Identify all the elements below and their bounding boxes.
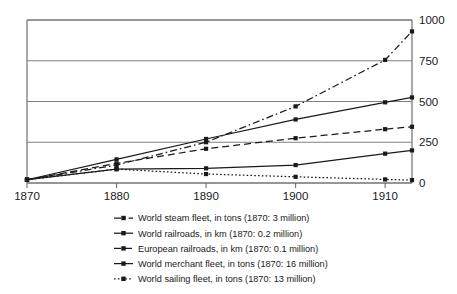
data-point-marker <box>383 58 387 62</box>
y-tick-label-1000: 1000 <box>419 14 445 26</box>
legend-item-1[interactable]: World railroads, in km (1870: 0.2 millio… <box>114 229 302 239</box>
x-tick-label-1900: 1900 <box>283 190 309 202</box>
data-point-marker <box>294 117 298 121</box>
legend-item-2[interactable]: European railroads, in km (1870: 0.1 mil… <box>114 244 318 254</box>
chart-legend: World steam fleet, in tons (1870: 3 mill… <box>114 213 328 284</box>
data-point-marker <box>204 172 208 176</box>
legend-marker <box>121 216 125 220</box>
x-tick-label-1880: 1880 <box>104 190 130 202</box>
y-tick-label-750: 750 <box>419 55 438 67</box>
data-point-marker <box>294 163 298 167</box>
legend-marker <box>121 277 125 281</box>
data-point-marker <box>410 148 414 152</box>
data-point-marker <box>410 29 414 33</box>
x-tick-label-1890: 1890 <box>193 190 219 202</box>
x-axis-ticks <box>27 183 385 188</box>
legend-item-3[interactable]: World merchant fleet, in tons (1870: 16 … <box>114 259 328 269</box>
x-tick-label-1910: 1910 <box>372 190 398 202</box>
data-point-marker <box>383 152 387 156</box>
data-point-marker <box>383 100 387 104</box>
data-point-marker <box>25 178 29 182</box>
data-point-marker <box>410 125 414 129</box>
data-point-marker <box>204 137 208 141</box>
data-point-marker <box>410 95 414 99</box>
chart-container: 02505007501000 18701880189019001910 Worl… <box>0 0 457 294</box>
legend-marker <box>121 231 125 235</box>
data-point-marker <box>204 166 208 170</box>
y-tick-label-500: 500 <box>419 96 438 108</box>
y-tick-label-0: 0 <box>419 177 425 189</box>
data-point-marker <box>204 147 208 151</box>
data-point-marker <box>114 157 118 161</box>
legend-label: World steam fleet, in tons (1870: 3 mill… <box>138 213 309 223</box>
line-chart: 02505007501000 18701880189019001910 Worl… <box>0 0 457 294</box>
legend-label: World railroads, in km (1870: 0.2 millio… <box>138 229 302 239</box>
x-axis-tick-labels: 18701880189019001910 <box>14 190 398 202</box>
data-point-marker <box>114 167 118 171</box>
data-point-marker <box>294 175 298 179</box>
legend-marker <box>121 261 125 265</box>
data-point-marker <box>383 177 387 181</box>
x-tick-label-1870: 1870 <box>14 190 40 202</box>
data-point-marker <box>114 161 118 165</box>
data-point-marker <box>383 127 387 131</box>
legend-label: World merchant fleet, in tons (1870: 16 … <box>138 259 328 269</box>
y-axis-tick-labels: 02505007501000 <box>419 14 445 189</box>
data-point-marker <box>294 136 298 140</box>
data-point-marker <box>410 178 414 182</box>
legend-item-0[interactable]: World steam fleet, in tons (1870: 3 mill… <box>114 213 309 223</box>
data-point-marker <box>294 104 298 108</box>
legend-label: World sailing fleet, in tons (1870: 13 m… <box>138 274 316 284</box>
legend-label: European railroads, in km (1870: 0.1 mil… <box>138 244 318 254</box>
legend-marker <box>121 246 125 250</box>
legend-item-4[interactable]: World sailing fleet, in tons (1870: 13 m… <box>114 274 316 284</box>
y-tick-label-250: 250 <box>419 136 438 148</box>
